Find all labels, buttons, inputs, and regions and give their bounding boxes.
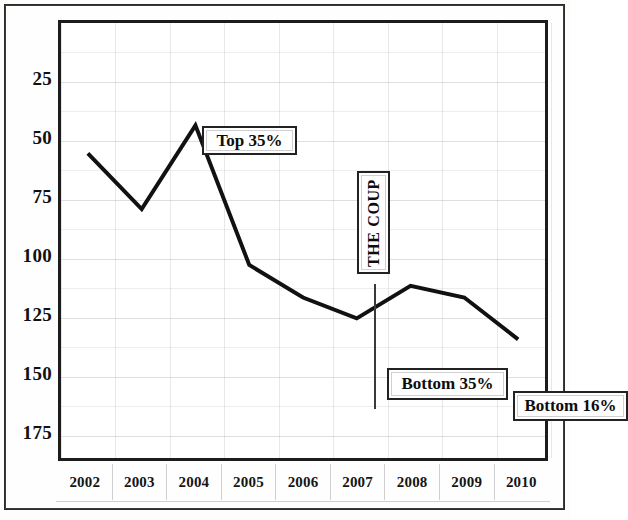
coup-marker-line <box>374 284 376 409</box>
annotation-bottom-16-label: Bottom 16% <box>524 396 616 416</box>
y-tick-label: 25 <box>4 68 52 90</box>
annotation-top-35-label: Top 35% <box>217 131 283 151</box>
annotation-the-coup-label: THE COUP <box>365 179 383 267</box>
x-tick-label: 2003 <box>113 464 168 500</box>
y-axis: 255075100125150175 <box>0 20 52 461</box>
y-tick-label: 75 <box>4 186 52 208</box>
x-tick-label: 2008 <box>385 464 440 500</box>
y-tick-label: 100 <box>4 245 52 267</box>
plot-area: Top 35% THE COUP Bottom 35% Bottom 16% <box>58 20 548 461</box>
x-tick-label: 2002 <box>58 464 113 500</box>
x-tick-label: 2007 <box>331 464 386 500</box>
annotation-bottom-35-label: Bottom 35% <box>401 374 493 394</box>
x-tick-label: 2004 <box>167 464 222 500</box>
y-tick-label: 125 <box>4 304 52 326</box>
x-tick-label: 2005 <box>222 464 277 500</box>
annotation-bottom-16: Bottom 16% <box>513 391 628 421</box>
y-tick-label: 175 <box>4 422 52 444</box>
y-tick-label: 150 <box>4 363 52 385</box>
y-tick-label: 50 <box>4 127 52 149</box>
annotation-bottom-35: Bottom 35% <box>387 368 508 400</box>
x-tick-label: 2006 <box>276 464 331 500</box>
x-axis: 200220032004200520062007200820092010 <box>58 464 548 500</box>
annotation-the-coup: THE COUP <box>357 171 390 274</box>
annotation-top-35: Top 35% <box>202 126 297 155</box>
x-tick-label: 2010 <box>495 464 549 500</box>
data-series-line <box>88 125 518 339</box>
x-tick-label: 2009 <box>440 464 495 500</box>
